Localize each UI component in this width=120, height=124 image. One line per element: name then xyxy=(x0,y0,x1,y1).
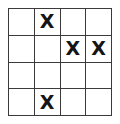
grid-cell-r1c2[interactable]: X xyxy=(35,9,61,36)
cell-mark: X xyxy=(40,92,55,111)
cell-mark: X xyxy=(40,12,55,31)
grid-cell-r1c4[interactable] xyxy=(86,9,112,36)
grid-cell-r4c1[interactable] xyxy=(9,89,35,116)
grid-cell-r4c4[interactable] xyxy=(86,89,112,116)
grid-cell-r2c4[interactable]: X xyxy=(86,36,112,63)
grid-figure: X X X X xyxy=(8,8,112,116)
cell-mark: X xyxy=(66,39,81,58)
grid-cell-r2c2[interactable] xyxy=(35,36,61,63)
grid-cell-r4c3[interactable] xyxy=(61,89,87,116)
cell-mark: X xyxy=(91,39,106,58)
grid-cell-r3c2[interactable] xyxy=(35,63,61,90)
grid-cell-r3c1[interactable] xyxy=(9,63,35,90)
grid-cell-r1c1[interactable] xyxy=(9,9,35,36)
grid-cell-r3c4[interactable] xyxy=(86,63,112,90)
grid-cell-r3c3[interactable] xyxy=(61,63,87,90)
grid-cell-r2c3[interactable]: X xyxy=(61,36,87,63)
grid-cell-r1c3[interactable] xyxy=(61,9,87,36)
grid-cell-r4c2[interactable]: X xyxy=(35,89,61,116)
grid-cell-r2c1[interactable] xyxy=(9,36,35,63)
